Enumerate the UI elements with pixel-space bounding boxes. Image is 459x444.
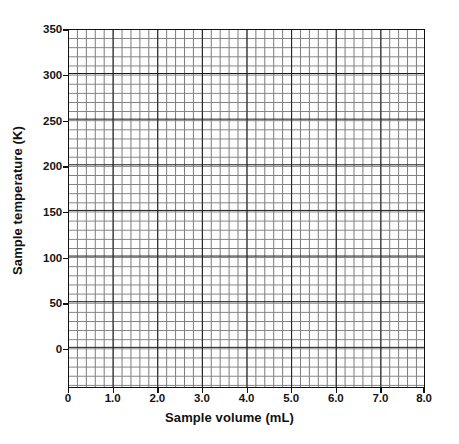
x-tick-label-1: 1.0 <box>105 392 121 404</box>
x-tick-label-8: 8.0 <box>416 392 432 404</box>
x-axis-title: Sample volume (mL) <box>0 410 459 425</box>
x-axis-tick-labels: 0 1.0 2.0 3.0 4.0 5.0 6.0 7.0 8.0 <box>0 392 459 410</box>
x-tick-label-2: 2.0 <box>149 392 165 404</box>
x-tick-label-4: 4.0 <box>239 392 255 404</box>
y-tick-mark-300 <box>63 75 68 76</box>
x-tick-label-7: 7.0 <box>373 392 389 404</box>
y-axis-title: Sample temperature (K) <box>10 101 25 301</box>
plot-area <box>68 29 425 388</box>
x-tick-label-0: 0 <box>65 392 71 404</box>
chart-figure: 350 300 250 200 150 100 50 0 0 1.0 2.0 3… <box>0 0 459 444</box>
y-tick-label-50: 50 <box>49 297 62 309</box>
x-tick-label-5: 5.0 <box>283 392 299 404</box>
x-tick-label-3: 3.0 <box>194 392 210 404</box>
y-tick-label-250: 250 <box>43 115 62 127</box>
y-tick-mark-50 <box>63 303 68 304</box>
y-tick-label-200: 200 <box>43 160 62 172</box>
y-tick-mark-200 <box>63 166 68 167</box>
y-tick-label-100: 100 <box>43 252 62 264</box>
y-tick-label-300: 300 <box>43 69 62 81</box>
y-tick-mark-150 <box>63 212 68 213</box>
y-tick-label-0: 0 <box>56 343 62 355</box>
y-tick-label-350: 350 <box>43 23 62 35</box>
y-tick-mark-350 <box>63 29 68 30</box>
y-tick-mark-100 <box>63 258 68 259</box>
plot-frame-border <box>68 29 425 388</box>
y-tick-label-150: 150 <box>43 206 62 218</box>
y-axis-tick-labels: 350 300 250 200 150 100 50 0 <box>26 0 62 444</box>
y-tick-mark-250 <box>63 121 68 122</box>
y-tick-mark-0 <box>63 349 68 350</box>
x-tick-label-6: 6.0 <box>328 392 344 404</box>
